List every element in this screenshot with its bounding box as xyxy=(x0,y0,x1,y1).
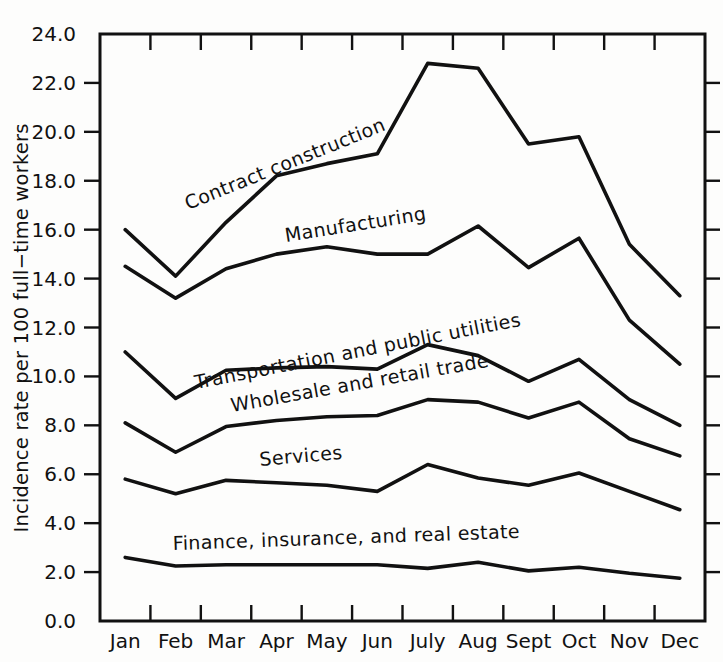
x-tick-label-feb: Feb xyxy=(158,629,193,653)
y-axis-tick-marks xyxy=(84,83,100,572)
series-line-contract-construction xyxy=(125,63,680,295)
x-tick-label-oct: Oct xyxy=(562,629,597,653)
y-axis-title: Incidence rate per 100 full−time workers xyxy=(10,123,33,532)
x-tick-label-dec: Dec xyxy=(660,629,699,653)
x-axis-top-tick-marks xyxy=(150,34,654,50)
y-tick-label: 20.0 xyxy=(31,120,76,144)
series-label-services: Services xyxy=(258,441,343,470)
y-tick-label: 6.0 xyxy=(44,462,76,486)
series-line-wholesale-and-retail-trade xyxy=(125,400,680,456)
y-axis-right-tick-marks xyxy=(705,83,720,572)
y-tick-label: 4.0 xyxy=(44,511,76,535)
y-tick-label: 8.0 xyxy=(44,413,76,437)
y-tick-label: 10.0 xyxy=(31,364,76,388)
x-tick-label-mar: Mar xyxy=(207,629,246,653)
x-tick-label-aug: Aug xyxy=(459,629,498,653)
chart-page: 0.02.04.06.08.010.012.014.016.018.020.02… xyxy=(0,0,723,662)
x-tick-label-jan: Jan xyxy=(108,629,141,653)
series-label-contract-construction: Contract construction xyxy=(181,113,388,214)
series-label-manufacturing: Manufacturing xyxy=(283,202,427,246)
x-tick-label-apr: Apr xyxy=(259,629,294,653)
x-axis-tick-labels: JanFebMarAprMayJunJulyAugSeptOctNovDec xyxy=(108,629,699,653)
y-tick-label: 24.0 xyxy=(31,22,76,46)
y-tick-label: 2.0 xyxy=(44,560,76,584)
incidence-rate-line-chart: 0.02.04.06.08.010.012.014.016.018.020.02… xyxy=(0,0,723,662)
y-tick-label: 22.0 xyxy=(31,71,76,95)
y-tick-label: 18.0 xyxy=(31,169,76,193)
x-tick-label-may: May xyxy=(306,629,348,653)
y-tick-label: 14.0 xyxy=(31,267,76,291)
x-axis-tick-marks xyxy=(150,605,654,621)
y-tick-label: 12.0 xyxy=(31,316,76,340)
y-tick-label: 0.0 xyxy=(44,609,76,633)
y-tick-label: 16.0 xyxy=(31,218,76,242)
series-lines xyxy=(125,63,680,578)
series-label-finance-insurance-and-real-estate: Finance, insurance, and real estate xyxy=(172,520,520,554)
x-tick-label-sept: Sept xyxy=(506,629,552,653)
series-line-finance-insurance-and-real-estate xyxy=(125,557,680,578)
x-tick-label-jun: Jun xyxy=(360,629,393,653)
y-axis-tick-labels: 0.02.04.06.08.010.012.014.016.018.020.02… xyxy=(31,22,76,633)
x-tick-label-nov: Nov xyxy=(610,629,649,653)
series-line-services xyxy=(125,464,680,509)
x-tick-label-july: July xyxy=(408,629,446,653)
